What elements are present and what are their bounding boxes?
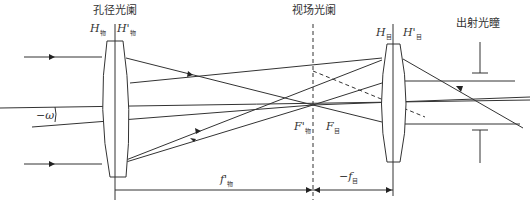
arrow-icon [195,128,201,134]
eyepiece-focus-label: F目 [325,120,340,135]
ray-bottom-to-focus [126,105,313,162]
field-angle-arc [55,107,56,122]
exit-pupil-label: 出射光瞳 [456,16,500,30]
optical-axis [0,100,530,108]
arrow-icon [49,161,55,167]
arrow-icon [49,54,55,60]
optical-system-diagram: −ω 视场光阑 孔径光阑 H物 H'物 H目 H'目 出射光瞳 F'物 F目 f… [0,0,530,210]
arrow-icon [187,71,193,77]
eyepiece-back-principal-label: H'目 [402,26,422,41]
objective-focus-label: F'物 [293,120,311,135]
dashed-ray [313,71,425,117]
exit-ray-diagonal [403,59,523,128]
eyepiece-lens [382,44,407,162]
aperture-stop-label: 孔径光阑 [93,3,137,17]
objective-front-principal-label: H物 [89,22,106,37]
oblique-ray-lower [126,60,382,160]
arrow-icon [306,187,312,193]
field-stop-label: 视场光阑 [292,3,336,17]
arrow-icon [314,187,320,193]
chief-ray-exit [313,97,530,105]
field-angle-label: −ω [36,109,54,122]
eyepiece-focal-length-label: −f目 [339,170,358,185]
objective-lens [103,41,129,177]
chief-ray [32,105,313,127]
objective-focal-length-label: f'物 [219,173,233,188]
ray-bottom-after-focus [313,83,382,105]
oblique-ray-upper [130,58,382,83]
arrow-icon [386,187,392,193]
ray-top-after-focus [313,105,382,122]
eyepiece-front-principal-label: H目 [375,26,392,41]
objective-back-principal-label: H'物 [116,22,136,37]
